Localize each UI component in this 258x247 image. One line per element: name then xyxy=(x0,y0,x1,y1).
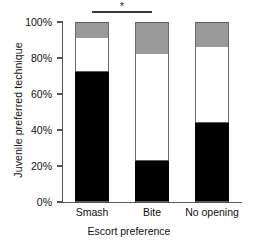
y-tick-label: 0% xyxy=(37,196,52,208)
x-tick-label: No opening xyxy=(185,206,239,218)
bar-segment xyxy=(75,72,109,202)
bar-segment xyxy=(75,38,109,72)
x-axis-title: Escort preference xyxy=(0,225,258,237)
significance-asterisk: * xyxy=(120,2,124,10)
y-tick-label: 100% xyxy=(25,16,52,28)
stacked-bar xyxy=(75,22,109,202)
bar-segment xyxy=(135,54,169,160)
x-tick-label: Smash xyxy=(76,206,109,218)
bar-segment xyxy=(135,22,169,54)
x-axis-line xyxy=(62,202,242,203)
bar-segment xyxy=(195,123,229,202)
x-tick-label: Bite xyxy=(143,206,161,218)
y-axis-title: Juvenile preferred technique xyxy=(12,15,24,205)
plot-area xyxy=(62,22,240,202)
y-tick-label: 60% xyxy=(31,88,52,100)
bar-segment xyxy=(135,161,169,202)
y-tick-label: 40% xyxy=(31,124,52,136)
bar-segment xyxy=(195,47,229,123)
stacked-bar xyxy=(135,22,169,202)
chart-figure: Juvenile preferred technique 0%20%40%60%… xyxy=(0,0,258,247)
stacked-bar xyxy=(195,22,229,202)
bar-segment xyxy=(75,22,109,38)
y-tick-label: 20% xyxy=(31,160,52,172)
y-tick-label: 80% xyxy=(31,52,52,64)
bar-segment xyxy=(195,22,229,47)
